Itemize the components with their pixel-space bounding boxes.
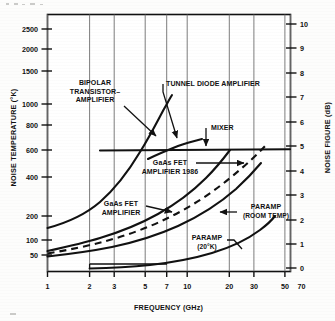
- x-tick-3: 3: [103, 282, 125, 291]
- scan-speck: [30, 3, 35, 5]
- y-right-tick-1: 1: [300, 240, 326, 249]
- y-right-tick-9: 9: [300, 44, 326, 53]
- y-left-tick-50: 50: [4, 251, 38, 260]
- x-tick-2: 2: [79, 282, 101, 291]
- annotation-bipolar-transistor-amplifier: BIPOLAR TRANSISTOR– AMPLIFIER: [56, 79, 134, 105]
- annotation-bipolar-line2: TRANSISTOR–: [56, 88, 134, 97]
- annotation-paramp-room-temp: PARAMP (ROOM TEMP): [237, 203, 295, 220]
- x-tick-20: 20: [218, 282, 240, 291]
- x-axis-title: FREQUENCY (GHz): [47, 303, 290, 312]
- scan-speck: [14, 3, 18, 5]
- x-axis-ticks: [48, 272, 285, 278]
- y-left-tick-2500: 2500: [4, 25, 38, 34]
- x-tick-30: 30: [243, 282, 265, 291]
- annotation-gaas-fet-amplifier: GaAs FET AMPLIFIER: [97, 200, 145, 217]
- x-tick-70: 70: [291, 282, 313, 291]
- y-left-tick-100: 100: [4, 236, 38, 245]
- scan-speck: [6, 3, 9, 5]
- annotation-tunnel-diode-amplifier: TUNNEL DIODE AMPLIFIER: [166, 80, 260, 89]
- y-axis-right-title: NOISE FIGURE (dB): [323, 68, 332, 208]
- scan-speck: [10, 313, 16, 315]
- annotation-gaas-1986-line2: AMPLIFIER 1986: [140, 168, 200, 177]
- annotation-paramp-room-line1: PARAMP: [237, 203, 295, 212]
- x-tick-5: 5: [134, 282, 156, 291]
- annotation-paramp-20k-line1: PARAMP: [186, 234, 228, 243]
- annotation-gaas-fet-line2: AMPLIFIER: [97, 209, 145, 218]
- annotation-paramp-room-line2: (ROOM TEMP): [237, 212, 295, 221]
- x-tick-1: 1: [37, 282, 59, 291]
- annotation-bipolar-line3: AMPLIFIER: [56, 96, 134, 105]
- annotation-paramp-20k: PARAMP (20°K): [186, 234, 228, 251]
- annotation-gaas-1986-line1: GaAs FET: [140, 159, 200, 168]
- y-right-tick-0: 0: [300, 264, 326, 273]
- y-right-tick-10: 10: [300, 20, 326, 29]
- annotation-bipolar-line1: BIPOLAR: [56, 79, 134, 88]
- x-tick-7: 7: [156, 282, 178, 291]
- x-tick-10: 10: [176, 282, 198, 291]
- annotation-paramp-20k-line2: (20°K): [186, 243, 228, 252]
- y-left-tick-200: 200: [4, 212, 38, 221]
- annotation-gaas-fet-line1: GaAs FET: [97, 200, 145, 209]
- annotation-mixer: MIXER: [211, 124, 234, 133]
- y-right-tick-2: 2: [300, 216, 326, 225]
- y-left-tick-2000: 2000: [4, 45, 38, 54]
- scan-speck: [40, 4, 43, 5]
- y-axis-left-title: NOISE TEMPERATURE (°K): [9, 68, 18, 208]
- scan-speck: [22, 4, 25, 5]
- noise-temperature-vs-frequency-chart: 2500 2000 1500 1000 800 600 400 200 100 …: [0, 0, 335, 321]
- annotation-gaas-fet-amplifier-1986: GaAs FET AMPLIFIER 1986: [140, 159, 200, 176]
